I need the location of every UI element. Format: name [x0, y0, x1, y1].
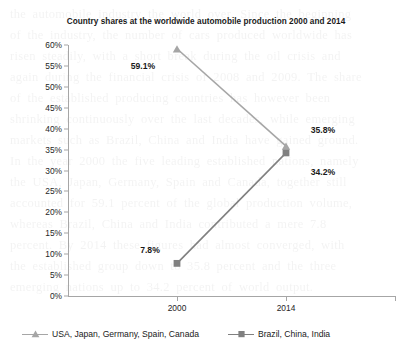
x-tick-mark: [286, 296, 287, 301]
plot-area: 0% 5% 10% 15% 20% 25% 30% 35% 40% 45% 50…: [68, 45, 395, 296]
x-tick-mark: [177, 296, 178, 301]
y-tick-label: 20%: [45, 207, 62, 217]
y-tick-label: 25%: [45, 186, 62, 196]
square-marker-icon: [174, 260, 181, 267]
y-tick-label: 35%: [45, 145, 62, 155]
y-tick-label: 15%: [45, 228, 62, 238]
data-label-59: 59.1%: [131, 61, 155, 71]
triangle-marker-icon: [31, 330, 40, 338]
chart-title: Country shares at the worldwide automobi…: [0, 17, 412, 26]
data-label-7-8: 7.8%: [140, 245, 160, 255]
legend-item-emerging[interactable]: Brazil, China, India: [228, 329, 330, 339]
y-tick-label: 50%: [45, 82, 62, 92]
line-chart: Country shares at the worldwide automobi…: [0, 0, 412, 363]
x-tick-label: 2014: [277, 303, 296, 313]
y-tick-label: 30%: [45, 166, 62, 176]
data-label-35-8: 35.8%: [311, 125, 335, 135]
square-marker-icon: [237, 330, 246, 338]
series-line-emerging: [177, 153, 286, 263]
legend-key-established: [22, 329, 48, 339]
legend-item-established[interactable]: USA, Japan, Germany, Spain, Canada: [22, 329, 199, 339]
chart-legend: USA, Japan, Germany, Spain, Canada Brazi…: [22, 329, 392, 347]
legend-label-established: USA, Japan, Germany, Spain, Canada: [52, 329, 199, 339]
data-label-34-2: 34.2%: [311, 167, 335, 177]
x-tick-label: 2000: [168, 303, 187, 313]
series-plot: [68, 45, 395, 296]
y-tick-label: 55%: [45, 61, 62, 71]
y-tick-label: 5%: [50, 270, 62, 280]
y-tick-label: 45%: [45, 103, 62, 113]
triangle-marker-icon: [173, 45, 181, 52]
legend-key-emerging: [228, 329, 254, 339]
series-line-established: [177, 49, 286, 146]
y-tick-label: 40%: [45, 124, 62, 134]
x-tick-mark: [395, 296, 396, 301]
y-tick-label: 60%: [45, 40, 62, 50]
y-tick-label: 10%: [45, 249, 62, 259]
square-marker-icon: [283, 150, 290, 157]
y-tick-label: 0%: [50, 291, 62, 301]
legend-label-emerging: Brazil, China, India: [258, 329, 330, 339]
x-axis-line: [68, 296, 395, 297]
